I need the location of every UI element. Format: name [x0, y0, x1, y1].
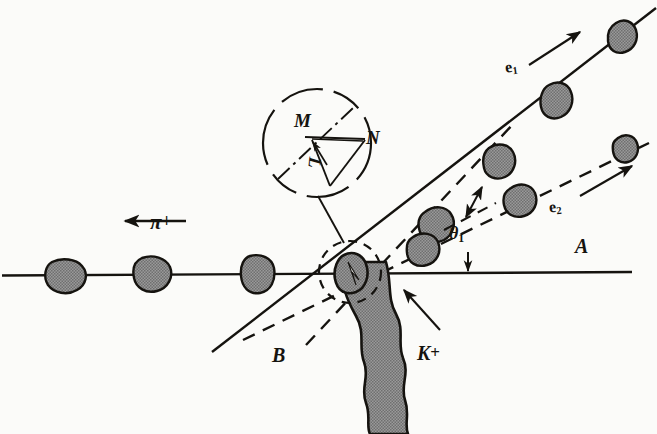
- inset-magnifier: [263, 89, 371, 197]
- electron2-label: e2: [548, 197, 562, 217]
- theta1-label: θ1: [449, 223, 464, 246]
- pion-label: π+: [150, 210, 172, 235]
- inset-connector-line: [318, 196, 344, 243]
- diagram-canvas: [0, 0, 657, 434]
- line-b-label: B: [272, 344, 285, 367]
- line-a-label: A: [575, 235, 588, 258]
- kaon-pointer-arrow[interactable]: [404, 290, 440, 330]
- electron1-label: e1: [504, 57, 519, 77]
- inset-center-label: M: [294, 110, 311, 132]
- kaon-label: K+: [417, 342, 440, 365]
- inset-right-label: N: [366, 127, 380, 149]
- electron1-direction-arrow[interactable]: [529, 32, 580, 65]
- inset-angle-label: L: [303, 156, 325, 169]
- e2-track-blobs: [407, 135, 638, 266]
- electron2-direction-arrow[interactable]: [580, 166, 632, 196]
- pion-track-blobs: [45, 255, 274, 293]
- bubble-chamber-diagram: π+ A B K+ e1 e2 θ1 M N L: [0, 0, 657, 434]
- line-a-horizontal-track: [2, 272, 632, 276]
